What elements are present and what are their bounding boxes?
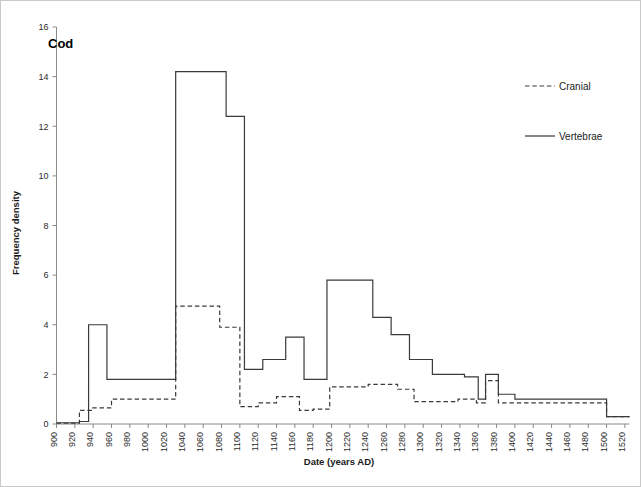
y-tick-label: 8 — [43, 221, 48, 231]
chart-legend: CranialVertebrae — [525, 81, 603, 142]
y-tick-label: 4 — [43, 320, 48, 330]
x-tick-label: 1520 — [617, 432, 627, 452]
y-tick-label: 2 — [43, 370, 48, 380]
x-tick-label: 1420 — [525, 432, 535, 452]
x-tick-label: 960 — [104, 432, 114, 447]
x-tick-label: 1220 — [342, 432, 352, 452]
y-tick-label: 10 — [38, 171, 48, 181]
y-tick-label: 12 — [38, 122, 48, 132]
x-tick-label: 940 — [85, 432, 95, 447]
x-tick-label: 1280 — [397, 432, 407, 452]
x-tick-label: 1000 — [140, 432, 150, 452]
x-tick-label: 1400 — [507, 432, 517, 452]
legend-label-vertebrae: Vertebrae — [559, 131, 603, 142]
x-tick-label: 1300 — [415, 432, 425, 452]
x-tick-label: 1140 — [269, 432, 279, 451]
x-tick-label: 900 — [49, 432, 59, 447]
data-series-group — [57, 72, 630, 424]
y-tick-label: 6 — [43, 270, 48, 280]
y-axis: 0246810121416 — [38, 22, 56, 429]
x-tick-label: 920 — [67, 432, 77, 447]
x-tick-label: 1500 — [599, 432, 609, 452]
x-tick-label: 1080 — [214, 432, 224, 452]
x-tick-label: 1200 — [324, 432, 334, 452]
series-line-cranial — [57, 306, 630, 423]
x-tick-label: 1100 — [232, 432, 242, 451]
x-axis-title: Date (years AD) — [304, 456, 374, 467]
y-tick-label: 14 — [38, 72, 48, 82]
x-tick-label: 1020 — [159, 432, 169, 452]
x-tick-label: 1380 — [489, 432, 499, 452]
panel-title: Cod — [48, 36, 73, 51]
x-tick-label: 1060 — [195, 432, 205, 452]
x-tick-label: 1120 — [250, 432, 260, 451]
x-tick-label: 980 — [122, 432, 132, 447]
legend-label-cranial: Cranial — [559, 81, 591, 92]
x-tick-label: 1440 — [544, 432, 554, 452]
y-tick-label: 0 — [43, 419, 48, 429]
x-tick-label: 1460 — [562, 432, 572, 452]
x-tick-label: 1260 — [379, 432, 389, 452]
x-tick-label: 1160 — [287, 432, 297, 451]
x-tick-label: 1180 — [305, 432, 315, 451]
x-tick-label: 1360 — [470, 432, 480, 452]
x-tick-label: 1040 — [177, 432, 187, 452]
y-axis-title: Frequency density — [10, 190, 21, 275]
x-tick-label: 1480 — [580, 432, 590, 452]
chart-canvas: 0246810121416 90092094096098010001020104… — [1, 1, 641, 487]
y-tick-label: 16 — [38, 22, 48, 32]
x-tick-label: 1340 — [452, 432, 462, 452]
x-axis: 9009209409609801000102010401060108011001… — [49, 424, 627, 452]
chart-figure: 0246810121416 90092094096098010001020104… — [0, 0, 641, 487]
series-line-vertebrae — [57, 72, 630, 423]
x-tick-label: 1240 — [360, 432, 370, 452]
x-tick-label: 1320 — [434, 432, 444, 452]
